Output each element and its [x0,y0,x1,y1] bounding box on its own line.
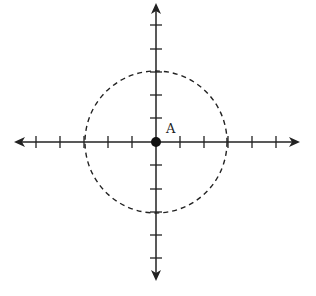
point-a-dot [151,137,161,147]
point-a-label: A [165,121,176,136]
coordinate-diagram: A [0,0,316,296]
